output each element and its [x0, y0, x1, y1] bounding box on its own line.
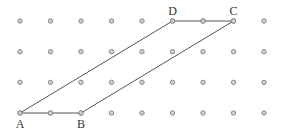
- grid-dot: [140, 80, 144, 84]
- label-d: D: [168, 4, 177, 18]
- grid-dot: [109, 19, 113, 23]
- grid-dot: [201, 80, 205, 84]
- grid-dot: [140, 111, 144, 115]
- grid-dot: [48, 80, 52, 84]
- grid-dot: [48, 19, 52, 23]
- grid-dot: [201, 49, 205, 53]
- parallelogram-diagram: A B C D: [0, 0, 284, 131]
- vertex-dot: [231, 19, 235, 23]
- label-c: C: [229, 4, 237, 18]
- grid-dot: [109, 80, 113, 84]
- grid-dot: [170, 80, 174, 84]
- grid-dot: [231, 49, 235, 53]
- grid-dot: [18, 19, 22, 23]
- grid-dot: [18, 80, 22, 84]
- vertex-dot: [201, 19, 205, 23]
- grid-dot: [109, 49, 113, 53]
- grid-dot: [79, 19, 83, 23]
- grid-dot: [48, 49, 52, 53]
- grid-dot: [262, 111, 266, 115]
- grid-dot: [201, 111, 205, 115]
- grid-dot: [109, 111, 113, 115]
- grid-dot: [231, 80, 235, 84]
- grid-dot: [231, 111, 235, 115]
- parallelogram-abcd: [20, 21, 234, 113]
- grid-dot: [262, 49, 266, 53]
- grid-dot: [140, 19, 144, 23]
- grid-dot: [170, 111, 174, 115]
- grid-dot: [79, 49, 83, 53]
- label-a: A: [16, 117, 25, 131]
- grid-dot: [140, 49, 144, 53]
- vertex-dot: [170, 19, 174, 23]
- vertex-dot: [18, 111, 22, 115]
- grid-dot: [18, 49, 22, 53]
- dot-grid: [18, 19, 266, 115]
- grid-dot: [170, 49, 174, 53]
- vertex-dot: [48, 111, 52, 115]
- vertex-dots: [18, 19, 236, 115]
- grid-dot: [79, 80, 83, 84]
- label-b: B: [77, 117, 85, 131]
- vertex-dot: [79, 111, 83, 115]
- grid-dot: [262, 19, 266, 23]
- grid-dot: [262, 80, 266, 84]
